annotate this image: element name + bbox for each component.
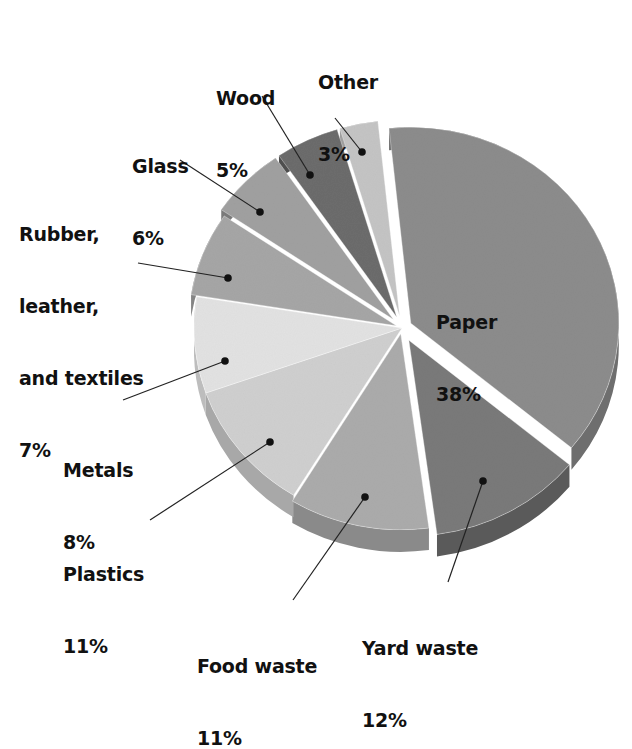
label-rubber-line1: Rubber, [19,222,144,246]
label-other: Other 3% [318,22,378,190]
leader-dot [221,357,229,365]
label-other-name: Other [318,70,378,94]
label-plastics: Plastics 11% [63,514,144,682]
label-food-waste: Food waste 11% [197,606,317,749]
label-rubber-line2: leather, [19,294,144,318]
label-plastics-pct: 11% [63,634,144,658]
label-wood-name: Wood [216,86,275,110]
label-food-waste-name: Food waste [197,654,317,678]
leader-dot [256,208,264,216]
label-paper-pct: 38% [436,382,497,406]
leader-dot [224,274,232,282]
label-yard-waste-pct: 12% [362,708,478,732]
label-food-waste-pct: 11% [197,726,317,749]
label-rubber-line3: and textiles [19,366,144,390]
leader-dot [479,477,487,485]
label-other-pct: 3% [318,142,378,166]
leader-dot [266,438,274,446]
label-yard-waste-name: Yard waste [362,636,478,660]
label-wood: Wood 5% [216,38,275,206]
label-paper-name: Paper [436,310,497,334]
label-wood-pct: 5% [216,158,275,182]
leader-dot [361,493,369,501]
leader-dot [306,171,314,179]
label-paper: Paper 38% [436,262,497,430]
label-metals-name: Metals [63,458,133,482]
label-yard-waste: Yard waste 12% [362,588,478,749]
label-plastics-name: Plastics [63,562,144,586]
